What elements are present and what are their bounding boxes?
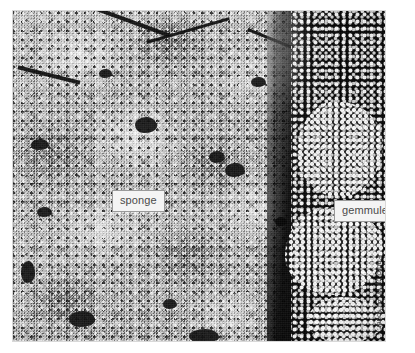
- photo-vignette: [13, 11, 385, 341]
- callout-label-sponge: sponge: [112, 190, 165, 212]
- photo-credit: Photo by W. A. Yoder.: [372, 255, 386, 351]
- callout-label-gemmules: gemmules: [334, 200, 385, 222]
- figure-container: sponge gemmules Photo by W. A. Yoder.: [0, 0, 415, 353]
- sponge-photograph: sponge gemmules: [13, 11, 385, 341]
